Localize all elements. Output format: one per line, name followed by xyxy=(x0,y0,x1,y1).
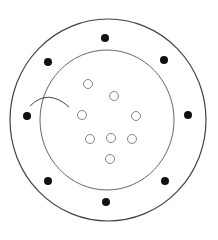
outer-ring xyxy=(10,19,206,221)
filled-dot xyxy=(184,111,192,119)
hollow-dot xyxy=(84,80,93,89)
hollow-dot xyxy=(86,135,95,144)
hollow-dot xyxy=(78,111,87,120)
ring-diagram xyxy=(0,0,218,240)
filled-dot xyxy=(160,56,168,64)
hollow-dot xyxy=(107,134,116,143)
curved-arc xyxy=(30,97,69,107)
filled-dot xyxy=(44,58,52,66)
hollow-dot xyxy=(132,112,141,121)
inner-ring xyxy=(40,50,174,190)
filled-dot xyxy=(44,177,52,185)
hollow-dots xyxy=(78,80,141,164)
filled-dot xyxy=(102,198,110,206)
filled-dot xyxy=(161,177,169,185)
filled-dot xyxy=(101,34,109,42)
hollow-dot xyxy=(110,92,119,101)
hollow-dot xyxy=(128,135,137,144)
hollow-dot xyxy=(106,155,115,164)
filled-dot xyxy=(23,112,31,120)
filled-dots xyxy=(23,34,192,206)
